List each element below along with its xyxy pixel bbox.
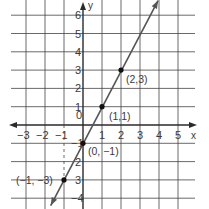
data-points: (−1, −3)(0, −1)(1,1)(2,3) xyxy=(16,68,148,186)
x-tick-label: −3 xyxy=(17,129,30,141)
y-tick-label: 3 xyxy=(75,174,81,186)
y-tick-label: 5 xyxy=(75,28,81,40)
y-tick-label: 6 xyxy=(75,9,81,21)
x-tick-label: −2 xyxy=(36,129,49,141)
y-tick-label: −4 xyxy=(71,192,84,204)
y-tick-label: 3 xyxy=(75,64,81,76)
data-line xyxy=(51,1,158,206)
x-axis-left-arrow-icon xyxy=(9,122,17,128)
point-label: (0, −1) xyxy=(88,145,119,157)
point-label: (−1, −3) xyxy=(16,174,53,186)
data-point xyxy=(80,141,85,146)
x-tick-label: 5 xyxy=(175,129,181,141)
x-axis-label: x xyxy=(191,130,196,141)
y-tick-label: 4 xyxy=(75,46,81,58)
x-tick-label: 4 xyxy=(156,129,162,141)
x-tick-label: 1 xyxy=(99,129,105,141)
x-tick-label: 3 xyxy=(137,129,143,141)
data-point xyxy=(61,177,66,182)
coordinate-plane: x y −3−2−1012345−432−1123456 (−1, −3)(0,… xyxy=(0,0,209,209)
x-axis-right-arrow-icon xyxy=(189,122,197,128)
data-point xyxy=(99,104,104,109)
data-point xyxy=(118,68,123,73)
x-tick-label: −1 xyxy=(55,129,68,141)
point-label: (1,1) xyxy=(109,110,131,122)
y-tick-label: 1 xyxy=(75,101,81,113)
line-arrow-up-icon xyxy=(152,1,158,9)
y-tick-label: 2 xyxy=(75,82,81,94)
series-line xyxy=(51,1,158,206)
x-tick-label: 2 xyxy=(118,129,124,141)
y-axis-label: y xyxy=(88,0,93,11)
point-label: (2,3) xyxy=(126,73,148,85)
